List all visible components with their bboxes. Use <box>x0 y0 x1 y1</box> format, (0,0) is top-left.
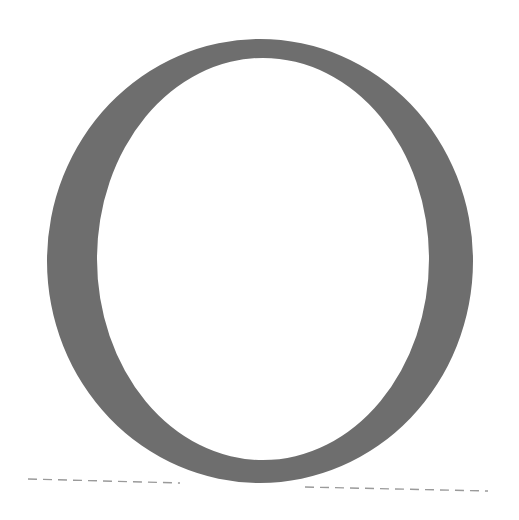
baseline-dashed-right <box>305 487 488 491</box>
letter-o-glyph <box>47 39 473 483</box>
letter-o-specimen <box>0 0 519 520</box>
baseline-dashed-left <box>28 479 180 483</box>
